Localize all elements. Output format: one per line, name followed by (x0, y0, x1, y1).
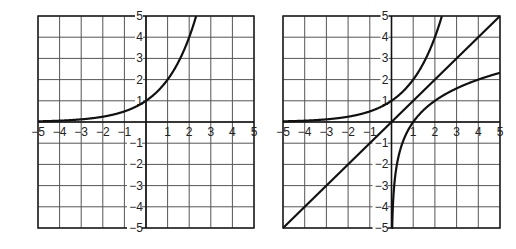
y-tick-label: −4 (375, 200, 389, 214)
curve-exp2 (38, 16, 196, 121)
x-tick-label: −4 (298, 125, 312, 139)
y-tick-label: 2 (136, 73, 143, 87)
x-tick-label: 3 (207, 125, 214, 139)
y-tick-label: 3 (136, 51, 143, 65)
y-tick-label: 2 (382, 73, 389, 87)
x-tick-label: 1 (164, 125, 171, 139)
x-tick-label: −5 (31, 125, 45, 139)
x-tick-label: 4 (229, 125, 236, 139)
y-tick-label: 3 (382, 51, 389, 65)
x-tick-label: 3 (453, 125, 460, 139)
y-tick-label: −3 (129, 179, 143, 193)
x-tick-label: 5 (497, 125, 504, 139)
x-tick-label: −2 (96, 125, 110, 139)
chart-panel-1: −5−4−3−2−11234554321−1−2−3−4−5 (31, 9, 258, 235)
y-tick-label: 4 (136, 30, 143, 44)
x-tick-label: 4 (475, 125, 482, 139)
y-tick-label: 5 (136, 9, 143, 23)
y-tick-label: −1 (129, 136, 143, 150)
x-tick-label: 5 (251, 125, 258, 139)
y-tick-label: 4 (382, 30, 389, 44)
x-tick-label: 2 (432, 125, 439, 139)
x-tick-label: −3 (74, 125, 88, 139)
y-tick-label: 5 (382, 9, 389, 23)
x-tick-label: −3 (320, 125, 334, 139)
x-tick-label: 2 (186, 125, 193, 139)
chart-canvas: −5−4−3−2−11234554321−1−2−3−4−5−5−4−3−2−1… (0, 0, 516, 249)
y-tick-label: −5 (129, 221, 143, 235)
curve-log2 (392, 73, 500, 228)
x-tick-label: −5 (276, 125, 290, 139)
x-tick-label: −2 (341, 125, 355, 139)
curve-exp2 (283, 16, 442, 121)
y-tick-label: −4 (129, 200, 143, 214)
chart-panel-2: −5−4−3−2−11234554321−1−2−3−4−5 (276, 9, 504, 235)
y-tick-label: −3 (375, 179, 389, 193)
y-tick-label: −5 (375, 221, 389, 235)
y-tick-label: −2 (375, 157, 389, 171)
y-tick-label: −2 (129, 157, 143, 171)
y-tick-label: −1 (375, 136, 389, 150)
x-tick-label: −4 (53, 125, 67, 139)
